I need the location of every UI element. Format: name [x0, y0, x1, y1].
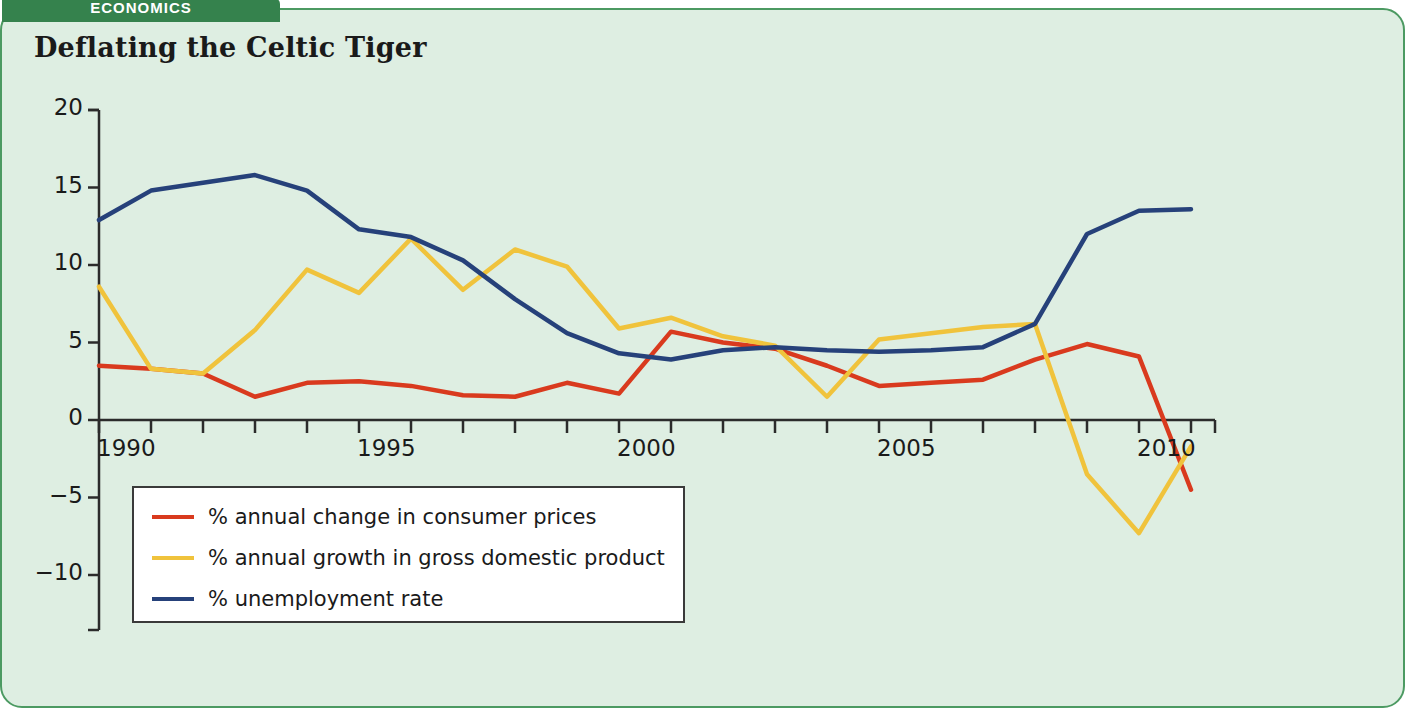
- y-axis-tick-label: 5: [12, 327, 83, 353]
- chart-title: Deflating the Celtic Tiger: [34, 32, 427, 63]
- x-axis-tick-label: 2005: [877, 435, 936, 461]
- x-axis-tick-label: 2000: [617, 435, 676, 461]
- legend-label: % annual growth in gross domestic produc…: [208, 546, 665, 570]
- section-tab-label: ECONOMICS: [2, 0, 280, 22]
- y-axis-tick-label: −10: [12, 559, 83, 585]
- y-axis-tick-label: 0: [12, 404, 83, 430]
- x-axis-tick-label: 1995: [357, 435, 416, 461]
- legend-label: % unemployment rate: [208, 587, 443, 611]
- chart-legend: % annual change in consumer prices% annu…: [132, 486, 685, 623]
- legend-color-swatch: [152, 597, 194, 601]
- legend-color-swatch: [152, 515, 194, 519]
- y-axis-tick-label: −5: [12, 482, 83, 508]
- legend-color-swatch: [152, 556, 194, 560]
- legend-item: % annual growth in gross domestic produc…: [152, 543, 665, 573]
- chart-series: [99, 175, 1191, 533]
- series-line-0: [99, 332, 1191, 490]
- legend-item: % unemployment rate: [152, 584, 443, 614]
- y-axis-tick-label: 15: [12, 172, 83, 198]
- x-axis-tick-label: 2010: [1137, 435, 1196, 461]
- figure-panel: ECONOMICS Deflating the Celtic Tiger 201…: [0, 8, 1405, 708]
- legend-item: % annual change in consumer prices: [152, 502, 596, 532]
- legend-label: % annual change in consumer prices: [208, 505, 596, 529]
- y-axis-tick-label: 10: [12, 249, 83, 275]
- series-line-2: [99, 175, 1191, 359]
- x-axis-tick-label: 1990: [97, 435, 156, 461]
- y-axis-tick-label: 20: [12, 94, 83, 120]
